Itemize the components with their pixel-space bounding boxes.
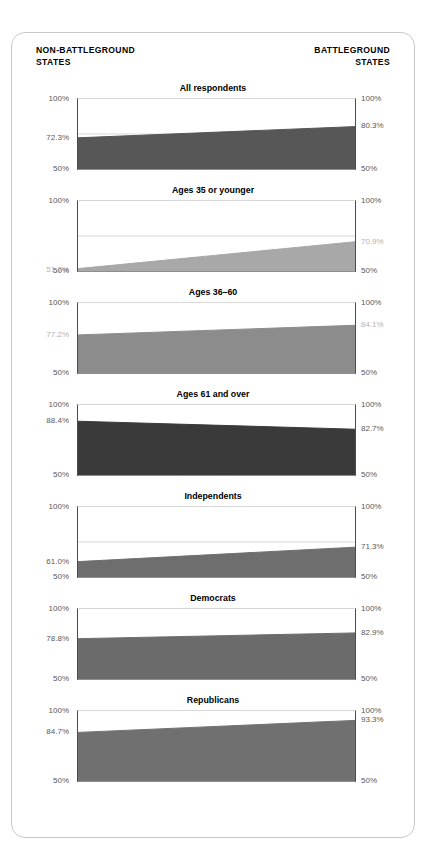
tick-left-bottom: 50% [12,776,73,785]
tick-right-bottom: 50% [361,674,377,683]
plot-area [77,710,356,782]
tick-right-bottom: 50% [361,368,377,377]
chart-panel: Ages 36–60100%77.2%50%100%84.1%50% [12,285,414,387]
panel-title: Independents [12,491,414,501]
chart-panel: All respondents100%72.3%50%100%80.3%50% [12,81,414,183]
tick-right-value: 71.3% [361,542,384,551]
tick-left-value: 78.8% [12,634,73,643]
chart-panel: Independents100%61.0%50%100%71.3%50% [12,489,414,591]
area-fill [78,633,355,679]
plot-area [77,302,356,374]
tick-right-bottom: 50% [361,776,377,785]
tick-left-value: 84.7% [12,727,73,736]
tick-left-value: 88.4% [12,416,73,425]
tick-left-top: 100% [12,604,73,613]
tick-right-top: 100% [361,94,381,103]
tick-left-bottom: 50% [12,164,73,173]
chart-panel: Ages 35 or younger100%51.7%50%100%70.9%5… [12,183,414,285]
tick-right-value: 93.3% [361,715,384,724]
tick-right-value: 80.3% [361,121,384,130]
plot-area [77,98,356,170]
tick-right-top: 100% [361,502,381,511]
tick-left-top: 100% [12,298,73,307]
area-fill [78,720,355,781]
tick-left-top: 100% [12,502,73,511]
panel-title: Democrats [12,593,414,603]
tick-right-top: 100% [361,196,381,205]
panel-title: Ages 35 or younger [12,185,414,195]
column-header-battleground: BATTLEGROUND STATES [314,45,390,68]
panel-title: Ages 36–60 [12,287,414,297]
tick-right-bottom: 50% [361,470,377,479]
tick-right-bottom: 50% [361,164,377,173]
panel-title: Republicans [12,695,414,705]
tick-left-bottom: 50% [12,470,73,479]
plot-area [77,608,356,680]
figure-card: NON-BATTLEGROUND STATES BATTLEGROUND STA… [11,32,415,838]
tick-left-bottom: 50% [12,266,73,275]
panel-stack: All respondents100%72.3%50%100%80.3%50%A… [12,81,414,795]
plot-area [77,404,356,476]
plot-area [77,200,356,272]
tick-right-value: 82.9% [361,628,384,637]
tick-right-top: 100% [361,298,381,307]
area-fill [78,325,355,373]
tick-right-value: 84.1% [361,320,384,329]
tick-left-bottom: 50% [12,674,73,683]
tick-left-top: 100% [12,94,73,103]
tick-left-bottom: 50% [12,368,73,377]
tick-left-bottom: 50% [12,572,73,581]
tick-left-value: 61.0% [12,557,73,566]
area-fill [78,547,355,577]
area-fill [78,127,355,169]
chart-panel: Ages 61 and over100%88.4%50%100%82.7%50% [12,387,414,489]
tick-left-top: 100% [12,706,73,715]
tick-right-value: 82.7% [361,424,384,433]
panel-title: All respondents [12,83,414,93]
tick-left-top: 100% [12,400,73,409]
column-headers: NON-BATTLEGROUND STATES BATTLEGROUND STA… [12,33,414,79]
tick-right-value: 70.9% [361,237,384,246]
panel-title: Ages 61 and over [12,389,414,399]
tick-right-top: 100% [361,604,381,613]
tick-left-value: 77.2% [12,330,73,339]
tick-right-bottom: 50% [361,266,377,275]
tick-right-bottom: 50% [361,572,377,581]
column-header-non-battleground: NON-BATTLEGROUND STATES [36,45,135,68]
tick-right-top: 100% [361,400,381,409]
tick-left-value: 72.3% [12,133,73,142]
plot-area [77,506,356,578]
chart-panel: Democrats100%78.8%50%100%82.9%50% [12,591,414,693]
chart-panel: Republicans100%84.7%50%100%93.3%50% [12,693,414,795]
area-fill [78,421,355,475]
tick-left-top: 100% [12,196,73,205]
